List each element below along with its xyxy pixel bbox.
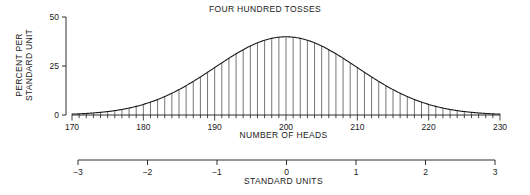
- y-axis: [62, 17, 66, 115]
- standard-units-tick-label: −3: [73, 167, 83, 177]
- x-tick-label: 210: [350, 122, 364, 132]
- x-tick-label: 230: [493, 122, 507, 132]
- standard-units-tick-label: −2: [143, 167, 153, 177]
- histogram-bars: [79, 37, 493, 115]
- y-tick-label: 50: [50, 12, 60, 22]
- x-axis: [72, 115, 500, 121]
- x-tick-label: 190: [208, 122, 222, 132]
- x-tick-label: 180: [136, 122, 150, 132]
- standard-units-tick-label: 1: [354, 167, 359, 177]
- x-tick-label: 200: [279, 122, 293, 132]
- y-tick-label: 0: [54, 110, 59, 120]
- standard-units-tick-label: 3: [493, 167, 498, 177]
- plot-area: 02550170180190200210220230−3−2−10123: [0, 0, 530, 195]
- standard-units-tick-label: 2: [423, 167, 428, 177]
- histogram-figure: FOUR HUNDRED TOSSES PERCENT PERSTANDARD …: [0, 0, 530, 195]
- y-tick-label: 25: [50, 61, 60, 71]
- standard-units-tick-label: 0: [284, 167, 289, 177]
- x-tick-label: 220: [422, 122, 436, 132]
- standard-units-axis: [78, 160, 495, 165]
- standard-units-tick-label: −1: [212, 167, 222, 177]
- x-tick-label: 170: [65, 122, 79, 132]
